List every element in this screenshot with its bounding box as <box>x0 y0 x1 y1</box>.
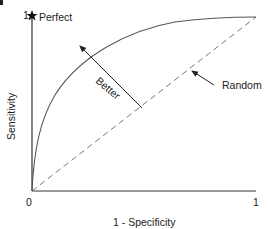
perfect-label: Perfect <box>39 11 72 23</box>
x-axis-label: 1 - Specificity <box>113 216 176 228</box>
better-arrow <box>80 46 142 108</box>
y-axis-label: Sensitivity <box>5 92 17 140</box>
better-label: Better <box>94 74 124 102</box>
random-arrow <box>192 71 214 85</box>
corner-mark <box>0 0 3 5</box>
x-tick-0: 0 <box>26 196 32 208</box>
x-tick-1: 1 <box>253 196 259 208</box>
random-line <box>32 17 256 191</box>
y-tick-1: 1 <box>23 9 29 21</box>
roc-chart: 1 Perfect Better Random Sensitivity 0 1 … <box>0 0 269 229</box>
random-label: Random <box>222 79 262 91</box>
